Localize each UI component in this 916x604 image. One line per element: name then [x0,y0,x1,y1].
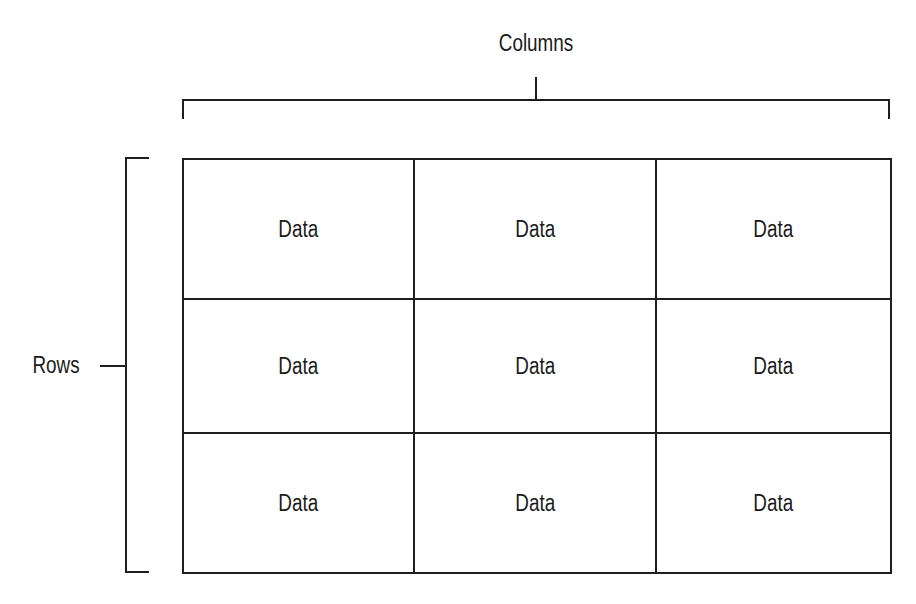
data-table: Data Data Data Data Data Data Data Data … [182,158,892,574]
rows-label: Rows [25,352,87,379]
table-row: Data Data Data [183,299,891,433]
table-row: Data Data Data [183,433,891,573]
table-cell: Data [414,433,656,573]
table-cell: Data [183,159,414,299]
table-cell: Data [656,159,891,299]
table-cell: Data [183,299,414,433]
table-row: Data Data Data [183,159,891,299]
table-cell: Data [656,299,891,433]
table-cell: Data [414,299,656,433]
table-cell: Data [183,433,414,573]
columns-label: Columns [488,30,583,57]
table-cell: Data [414,159,656,299]
table-cell: Data [656,433,891,573]
